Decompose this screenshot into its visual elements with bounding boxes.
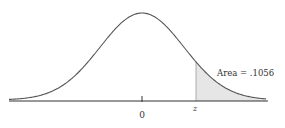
z-label: z — [192, 104, 198, 113]
bell-curve — [9, 13, 266, 99]
area-label: Area = .1056 — [216, 68, 274, 78]
zero-label: 0 — [139, 110, 145, 120]
normal-curve-diagram: 0 z Area = .1056 — [0, 0, 285, 128]
